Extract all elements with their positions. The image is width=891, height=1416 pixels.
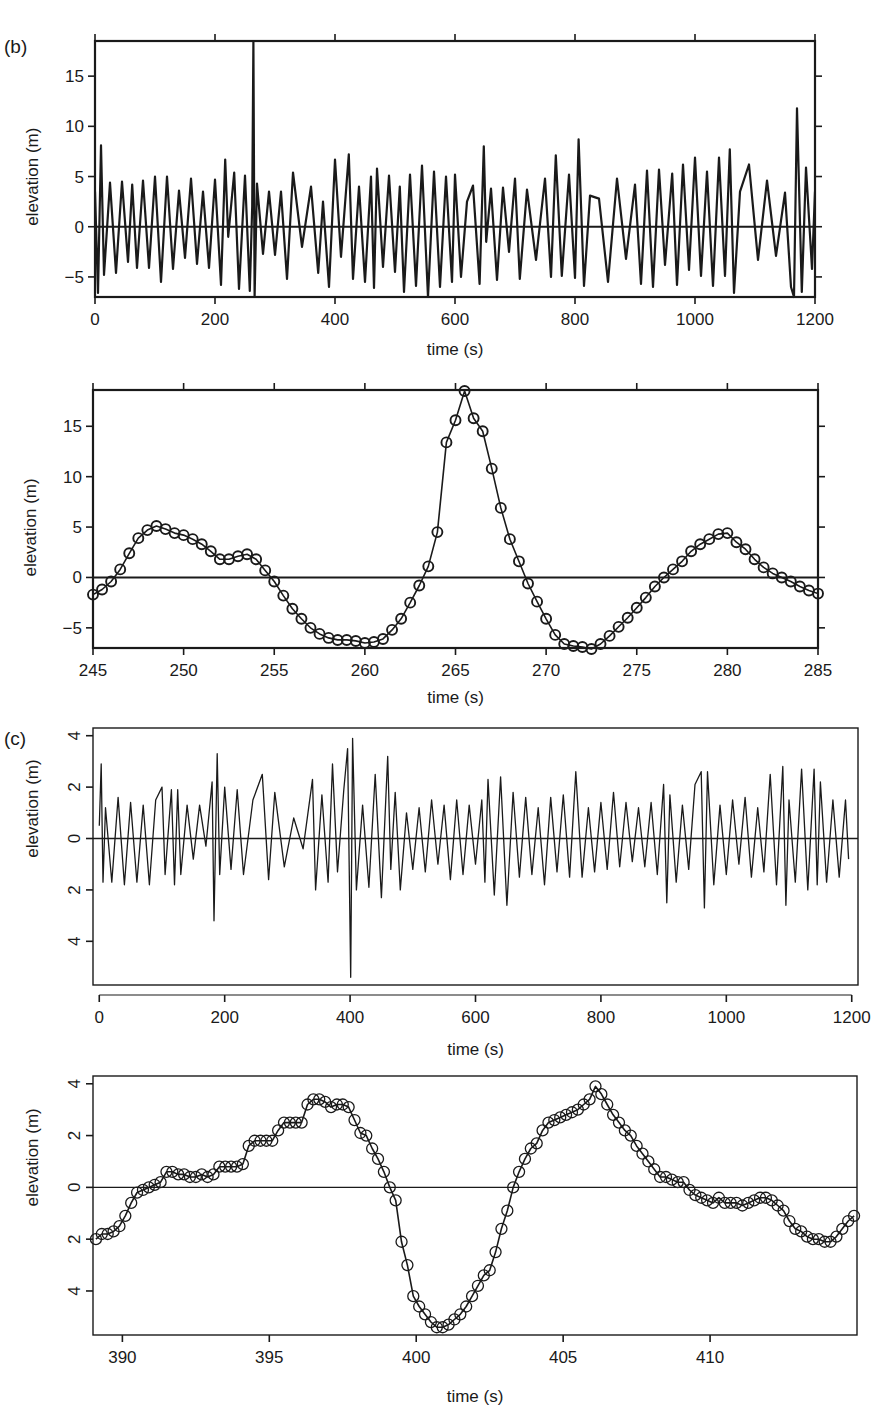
- y-tick-label: −5: [63, 619, 82, 638]
- x-tick-label: 405: [549, 1348, 577, 1367]
- chart-b-full: 020040060080010001200−5051015time (s)ele…: [23, 34, 834, 359]
- x-axis-label: time (s): [427, 688, 484, 707]
- y-tick-label: 2: [65, 782, 84, 791]
- data-series-line: [95, 41, 815, 297]
- x-tick-label: 410: [696, 1348, 724, 1367]
- x-tick-label: 395: [255, 1348, 283, 1367]
- chart-c-zoom: 39039540040541042024time (s)elevation (m…: [23, 1076, 860, 1406]
- x-tick-label: 390: [108, 1348, 136, 1367]
- y-tick-label: 10: [65, 117, 84, 136]
- x-tick-label: 1000: [676, 310, 714, 329]
- y-tick-label: 4: [65, 731, 84, 740]
- y-tick-label: 2: [65, 1234, 84, 1243]
- x-tick-label: 245: [79, 661, 107, 680]
- panel-label-c: (c): [4, 728, 26, 749]
- x-tick-label: 270: [532, 661, 560, 680]
- y-tick-label: −5: [65, 268, 84, 287]
- x-tick-label: 260: [351, 661, 379, 680]
- x-tick-label: 600: [461, 1008, 489, 1027]
- x-tick-label: 1200: [796, 310, 834, 329]
- x-tick-label: 285: [804, 661, 832, 680]
- y-tick-label: 5: [75, 168, 84, 187]
- data-series-line: [93, 391, 818, 649]
- chart-c-full: 02004006008001000120042024time (s)elevat…: [23, 728, 871, 1059]
- x-tick-label: 600: [441, 310, 469, 329]
- y-tick-label: 2: [65, 1131, 84, 1140]
- y-tick-label: 5: [73, 518, 82, 537]
- y-axis-label: elevation (m): [23, 128, 42, 226]
- x-tick-label: 800: [587, 1008, 615, 1027]
- y-tick-label: 4: [65, 1286, 84, 1295]
- x-tick-label: 400: [321, 310, 349, 329]
- x-tick-label: 275: [623, 661, 651, 680]
- y-tick-label: 4: [65, 1079, 84, 1088]
- figure: (b) (c) 020040060080010001200−5051015tim…: [0, 0, 891, 1416]
- x-tick-label: 800: [561, 310, 589, 329]
- y-tick-label: 0: [65, 1183, 84, 1192]
- plot-frame: [93, 728, 858, 985]
- y-tick-label: 0: [65, 834, 84, 843]
- y-axis-label: elevation (m): [23, 1108, 42, 1206]
- x-axis-label: time (s): [447, 1040, 504, 1059]
- panel-label-b: (b): [4, 36, 27, 57]
- x-tick-label: 400: [402, 1348, 430, 1367]
- y-axis-label: elevation (m): [21, 478, 40, 576]
- x-tick-label: 280: [713, 661, 741, 680]
- y-axis-label: elevation (m): [23, 759, 42, 857]
- x-tick-label: 265: [441, 661, 469, 680]
- chart-b-zoom: 245250255260265270275280285−5051015time …: [21, 383, 832, 707]
- plot-frame: [95, 41, 815, 297]
- y-tick-label: 0: [75, 218, 84, 237]
- x-tick-label: 200: [201, 310, 229, 329]
- y-tick-label: 2: [65, 885, 84, 894]
- x-tick-label: 1000: [707, 1008, 745, 1027]
- y-tick-label: 4: [65, 937, 84, 946]
- x-tick-label: 250: [169, 661, 197, 680]
- x-tick-label: 255: [260, 661, 288, 680]
- x-tick-label: 400: [336, 1008, 364, 1027]
- x-tick-label: 0: [90, 310, 99, 329]
- plot-frame: [93, 390, 818, 648]
- x-tick-label: 0: [95, 1008, 104, 1027]
- y-tick-label: 10: [63, 468, 82, 487]
- y-tick-label: 15: [63, 417, 82, 436]
- x-axis-label: time (s): [427, 340, 484, 359]
- y-tick-label: 15: [65, 67, 84, 86]
- data-series-line: [99, 738, 848, 977]
- x-tick-label: 1200: [833, 1008, 871, 1027]
- x-axis-label: time (s): [447, 1387, 504, 1406]
- y-tick-label: 0: [73, 568, 82, 587]
- x-tick-label: 200: [210, 1008, 238, 1027]
